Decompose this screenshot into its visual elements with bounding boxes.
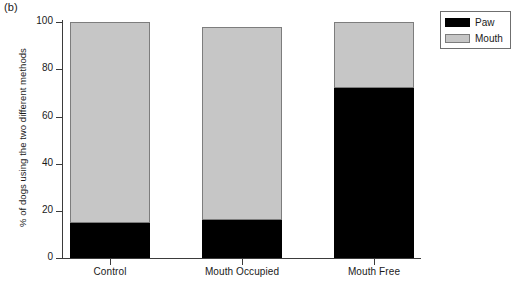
bar-mouth-free (334, 22, 414, 258)
bar-segment-mouth (334, 22, 414, 88)
legend-label-paw: Paw (475, 17, 494, 28)
legend-swatch-paw-icon (445, 18, 470, 27)
bar-segment-mouth (70, 22, 150, 223)
legend-item-paw: Paw (445, 17, 494, 28)
y-tick-label-0: 0 (1, 251, 53, 262)
y-axis-line (62, 20, 63, 259)
bar-segment-mouth (202, 27, 282, 221)
y-tick-label-20: 20 (1, 204, 53, 215)
y-tick-label-100: 100 (1, 15, 53, 26)
bar-control (70, 22, 150, 258)
legend-swatch-mouth-icon (445, 34, 470, 43)
bar-segment-paw (334, 88, 414, 258)
legend: Paw Mouth (440, 11, 511, 49)
y-tick-label-40: 40 (1, 157, 53, 168)
x-tick-label-mouth-free: Mouth Free (294, 266, 454, 277)
y-axis-title: % of dogs using the two different method… (17, 13, 28, 263)
y-tick-label-80: 80 (1, 62, 53, 73)
figure-panel-b: (b) % of dogs using the two different me… (0, 0, 517, 282)
bar-mouth-occupied (202, 27, 282, 258)
legend-label-mouth: Mouth (475, 33, 503, 44)
y-tick-label-60: 60 (1, 110, 53, 121)
bar-segment-paw (70, 223, 150, 258)
bar-segment-paw (202, 220, 282, 258)
legend-item-mouth: Mouth (445, 33, 503, 44)
